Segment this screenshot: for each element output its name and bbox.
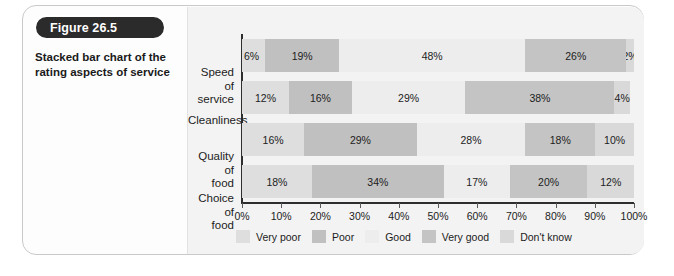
bar-segment: 10% <box>595 123 634 156</box>
legend-swatch <box>236 230 250 243</box>
legend-item[interactable]: Very good <box>422 230 489 243</box>
figure-number-label: Figure 26.5 <box>36 21 117 35</box>
category-label-cleanliness: Cleanliness <box>188 114 234 128</box>
bar-segment: 12% <box>242 81 289 114</box>
chart-panel: Speed of service Cleanliness Quality of … <box>187 7 644 254</box>
bar-segment: 38% <box>465 81 614 114</box>
category-label-line1: Quality of <box>198 150 234 176</box>
category-label-line2: service <box>198 93 234 105</box>
legend-label: Very poor <box>256 231 301 243</box>
legend-label: Very good <box>442 231 489 243</box>
x-axis-tick-label: 10% <box>271 210 292 222</box>
chart-legend: Very poorPoorGoodVery goodDon't know <box>236 230 636 243</box>
x-axis-tick <box>634 203 635 208</box>
bar-segment: 18% <box>242 165 312 198</box>
x-axis-tick <box>556 203 557 208</box>
x-axis-tick-label: 20% <box>310 210 331 222</box>
figure-caption-column: Figure 26.5 Stacked bar chart of the rat… <box>23 6 187 254</box>
category-label-line2: food <box>212 177 234 189</box>
x-axis-tick <box>438 203 439 208</box>
bar-row: 18% 34% 17% 20% 12% <box>242 165 634 198</box>
bar-segment: 19% <box>265 39 339 72</box>
bar-segment: 12% <box>587 165 634 198</box>
category-label-choice-of-food: Choice of food <box>188 192 234 233</box>
bar-segment: 26% <box>525 39 626 72</box>
category-label-speed-of-service: Speed of service <box>188 66 234 107</box>
legend-swatch <box>422 230 436 243</box>
legend-item[interactable]: Don't know <box>500 230 572 243</box>
legend-item[interactable]: Good <box>365 230 411 243</box>
x-axis-tick-label: 100% <box>621 210 648 222</box>
x-axis-tick <box>516 203 517 208</box>
x-axis-tick <box>360 203 361 208</box>
bar-row: 16% 29% 28% 18% 10% <box>242 123 634 156</box>
x-axis-tick <box>399 203 400 208</box>
x-axis-tick-label: 70% <box>506 210 527 222</box>
x-axis-tick <box>477 203 478 208</box>
x-axis-tick <box>281 203 282 208</box>
x-axis-tick-label: 0% <box>234 210 249 222</box>
bar-segment: 16% <box>242 123 304 156</box>
bar-segment: 48% <box>339 39 525 72</box>
bar-segment: 34% <box>312 165 444 198</box>
bar-segment: 2% <box>626 39 634 72</box>
bar-segment: 17% <box>444 165 510 198</box>
bar-segment: 29% <box>304 123 417 156</box>
category-labels: Speed of service Cleanliness Quality of … <box>188 61 234 229</box>
legend-swatch <box>365 230 379 243</box>
bar-segment: 16% <box>289 81 352 114</box>
x-axis-tick-label: 50% <box>427 210 448 222</box>
bar-row: 12% 16% 29% 38% 4% <box>242 81 634 114</box>
figure-number-badge: Figure 26.5 <box>34 15 166 40</box>
x-axis-tick <box>320 203 321 208</box>
figure-card: Figure 26.5 Stacked bar chart of the rat… <box>22 5 644 255</box>
bar-segment: 18% <box>525 123 595 156</box>
bar-segment: 29% <box>352 81 466 114</box>
bar-segment: 6% <box>242 39 265 72</box>
x-axis-tick <box>595 203 596 208</box>
legend-item[interactable]: Very poor <box>236 230 301 243</box>
category-label-quality-of-food: Quality of food <box>188 150 234 191</box>
legend-label: Good <box>385 231 411 243</box>
bar-segment: 4% <box>614 81 630 114</box>
x-axis-tick-label: 30% <box>349 210 370 222</box>
plot-area: Speed of service Cleanliness Quality of … <box>242 34 634 202</box>
category-label-line1: Speed of <box>201 66 234 92</box>
figure-caption-text: Stacked bar chart of the rating aspects … <box>35 50 177 79</box>
bar-row: 6% 19% 48% 26% 2% <box>242 39 634 72</box>
legend-item[interactable]: Poor <box>312 230 354 243</box>
legend-label: Poor <box>332 231 354 243</box>
legend-swatch <box>500 230 514 243</box>
x-axis-tick-label: 80% <box>545 210 566 222</box>
x-axis-tick-label: 40% <box>388 210 409 222</box>
category-label-line1: Cleanliness <box>188 114 247 126</box>
x-axis-tick-label: 60% <box>467 210 488 222</box>
category-label-line2: food <box>212 219 234 231</box>
bar-segment: 28% <box>417 123 526 156</box>
x-axis-tick <box>242 203 243 208</box>
bar-segment: 20% <box>510 165 588 198</box>
legend-swatch <box>312 230 326 243</box>
legend-label: Don't know <box>520 231 572 243</box>
x-axis-tick-label: 90% <box>584 210 605 222</box>
category-label-line1: Choice of <box>198 192 234 218</box>
